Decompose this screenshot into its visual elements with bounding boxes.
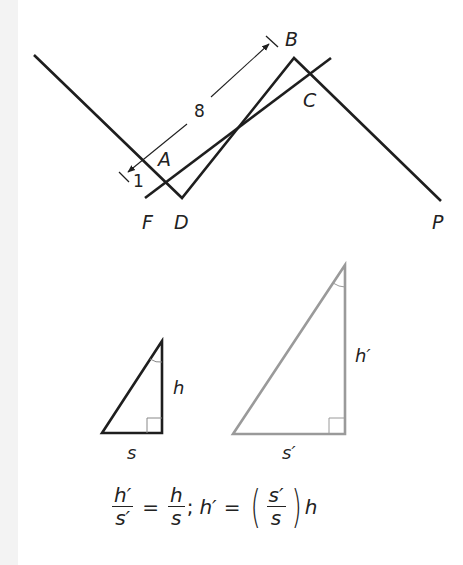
fraction-numerator: h′ (112, 484, 133, 507)
small-triangle-base-label: s (127, 442, 136, 463)
right-paren: ) (291, 485, 301, 529)
dimension-label-8: 8 (194, 101, 205, 121)
small-triangle (102, 341, 162, 433)
large-triangle-base-label: s′ (282, 442, 295, 463)
fraction-denominator: s (169, 507, 183, 529)
small-triangle-right-angle-mark (147, 418, 162, 433)
diagram-canvas: 8 1 B C A F D P h s h′ s′ (0, 0, 463, 565)
large-triangle-angle-arc (333, 283, 345, 287)
fraction-h-over-s: h s (168, 484, 185, 529)
h-term: h (305, 495, 318, 519)
small-triangle-angle-arc (150, 359, 162, 362)
point-label-b: B (285, 28, 298, 50)
point-label-f: F (142, 211, 154, 233)
line-f (145, 58, 331, 198)
dimension-line-8-upper (211, 44, 269, 97)
equals-sign: = (142, 495, 159, 519)
fraction-s-prime-over-s: s′ s (267, 484, 286, 529)
fraction-denominator: s (269, 507, 283, 529)
large-triangle-height-label: h′ (355, 345, 371, 366)
point-label-d: D (174, 211, 189, 233)
point-label-a: A (156, 148, 171, 170)
point-label-p: P (432, 211, 444, 233)
large-triangle-right-angle-mark (329, 418, 345, 434)
dimension-label-1: 1 (133, 171, 144, 191)
h-prime-term: h′ (199, 495, 216, 519)
left-paren: ( (251, 485, 261, 529)
equals-sign: = (224, 495, 241, 519)
fraction-h-prime-over-s-prime: h′ s′ (112, 484, 133, 529)
point-label-c: C (303, 89, 317, 111)
semicolon: ; (187, 495, 194, 519)
large-triangle (233, 265, 345, 434)
similar-triangles-equation: h′ s′ = h s ; h′ = ( s′ s ) h (110, 484, 317, 529)
fraction-numerator: s′ (267, 484, 286, 507)
fraction-numerator: h (168, 484, 185, 507)
dimension-tick-bottom (119, 172, 129, 182)
small-triangle-height-label: h (173, 377, 184, 398)
fraction-denominator: s′ (113, 507, 132, 529)
